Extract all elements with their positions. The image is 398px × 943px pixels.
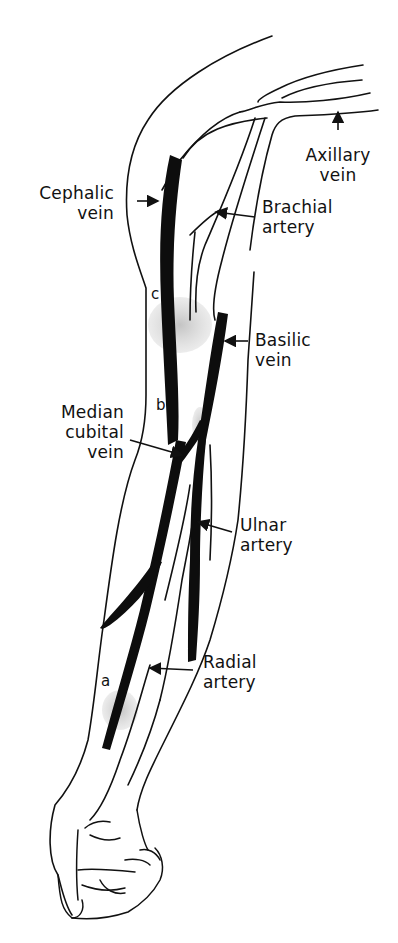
label-line: Axillary — [294, 145, 382, 165]
label-line: artery — [203, 672, 283, 692]
label-line: artery — [240, 535, 320, 555]
label-line: Ulnar — [240, 515, 320, 535]
label-line: Radial — [203, 652, 283, 672]
label-basilic-vein: Basilic vein — [255, 330, 335, 370]
label-line: vein — [36, 442, 124, 462]
label-line: artery — [262, 217, 352, 237]
label-ulnar-artery: Ulnar artery — [240, 515, 320, 555]
site-marker-b: b — [156, 396, 166, 414]
label-cephalic-vein: Cephalic vein — [18, 183, 114, 223]
site-marker-c: c — [151, 285, 159, 303]
label-line: Cephalic — [18, 183, 114, 203]
label-line: Basilic — [255, 330, 335, 350]
fist — [58, 810, 162, 919]
label-line: cubital — [36, 422, 124, 442]
label-line: vein — [294, 165, 382, 185]
label-median-cubital-vein: Median cubital vein — [36, 402, 124, 462]
arm-vessel-diagram: Axillary vein Cephalic vein Brachial art… — [0, 0, 398, 943]
site-marker-a: a — [101, 672, 110, 690]
label-radial-artery: Radial artery — [203, 652, 283, 692]
label-axillary-vein: Axillary vein — [294, 145, 382, 185]
label-line: vein — [255, 350, 335, 370]
label-brachial-artery: Brachial artery — [262, 197, 352, 237]
arm-illustration — [0, 0, 398, 943]
arrow-ulnar-artery — [198, 522, 232, 532]
leader-arrows — [130, 112, 338, 670]
label-line: Brachial — [262, 197, 352, 217]
label-line: vein — [18, 203, 114, 223]
arrow-radial-artery — [150, 668, 193, 670]
label-line: Median — [36, 402, 124, 422]
